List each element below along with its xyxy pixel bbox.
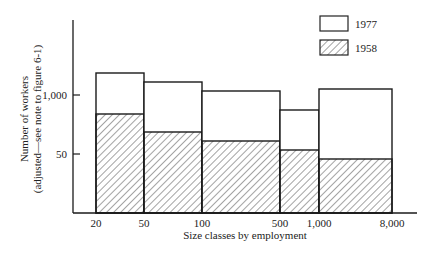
x-tick-label: 500 [272,217,289,229]
bar-1958-3 [202,141,280,213]
x-tick-label: 50 [139,217,151,229]
legend-swatch-1958 [320,40,348,55]
bars-group [96,73,392,213]
bar-1958-1 [96,114,144,213]
y-axis-title: Number of workers [18,34,31,204]
histogram-chart: 20501005001,0008,000 1,00050 1977 1958 S… [0,0,431,256]
legend-swatch-1977 [320,16,348,31]
legend-label-1958: 1958 [355,42,378,54]
x-tick-labels: 20501005001,0008,000 [91,217,405,229]
legend-label-1977: 1977 [355,18,378,30]
y-tick-label: 50 [56,148,68,160]
x-tick-label: 8,000 [380,217,405,229]
legend: 1977 1958 [320,16,378,55]
y-axis-label: Number of workers (adjusted—see note to … [18,34,54,204]
x-tick-label: 100 [194,217,211,229]
bar-1958-4 [280,150,319,213]
x-tick-label: 1,000 [307,217,332,229]
bar-1958-2 [144,132,202,213]
x-axis-label: Size classes by employment [183,229,307,241]
x-tick-label: 20 [91,217,103,229]
y-axis-note: (adjusted—see note to figure 6-1) [31,34,44,204]
bar-1958-5 [319,159,392,213]
